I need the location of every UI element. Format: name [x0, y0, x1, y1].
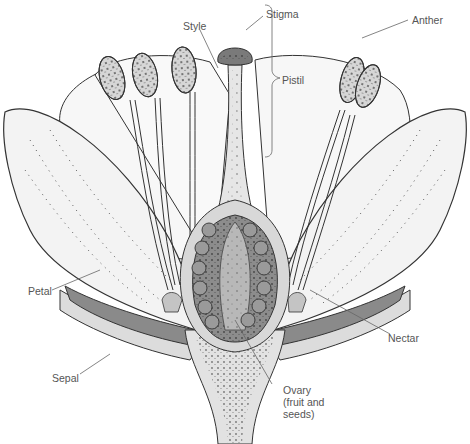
label-stigma: Stigma: [266, 8, 299, 20]
label-style: Style: [183, 20, 206, 32]
label-ovary: Ovary (fruit and seeds): [283, 384, 324, 420]
label-pistil: Pistil: [282, 74, 304, 86]
label-petal: Petal: [28, 285, 52, 297]
label-sepal: Sepal: [52, 372, 79, 384]
label-anther: Anther: [412, 14, 443, 26]
label-nectar: Nectar: [388, 332, 419, 344]
